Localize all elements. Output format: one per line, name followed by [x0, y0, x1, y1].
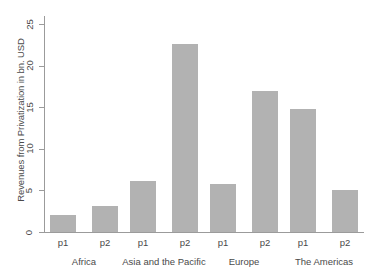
- bar: [130, 181, 156, 232]
- y-axis-tick-labels: 0510152025: [20, 10, 38, 238]
- bar: [332, 190, 358, 232]
- x-axis-period-label: p1: [123, 236, 163, 250]
- y-axis-tick-label: 25: [20, 18, 38, 31]
- bar: [50, 215, 76, 232]
- x-axis-period-label: p2: [165, 236, 205, 250]
- bar-chart: Revenues from Privatization in bn. USD 0…: [0, 0, 370, 278]
- bar: [252, 91, 278, 232]
- bar: [92, 206, 118, 232]
- x-axis-line: [44, 232, 364, 233]
- x-axis-period-labels: p1p2p1p2p1p2p1p2: [44, 236, 364, 250]
- x-axis-group-label: The Americas: [244, 254, 370, 270]
- x-axis-period-label: p2: [325, 236, 365, 250]
- y-axis-tick-label: 20: [20, 59, 38, 72]
- x-axis-period-label: p1: [43, 236, 83, 250]
- x-axis-period-label: p2: [245, 236, 285, 250]
- x-axis-period-label: p1: [283, 236, 323, 250]
- x-axis-period-label: p1: [203, 236, 243, 250]
- y-axis-tick-label: 15: [20, 101, 38, 114]
- bar: [172, 44, 198, 232]
- plot-area: [44, 16, 364, 232]
- bar: [290, 109, 316, 232]
- y-axis-tick-label: 0: [20, 226, 38, 239]
- bar: [210, 184, 236, 232]
- x-axis-period-label: p2: [85, 236, 125, 250]
- y-axis-tick-label: 10: [20, 142, 38, 155]
- x-axis-group-labels: AfricaAsia and the PacificEuropeThe Amer…: [44, 254, 364, 270]
- y-axis-tick-label: 5: [20, 184, 38, 197]
